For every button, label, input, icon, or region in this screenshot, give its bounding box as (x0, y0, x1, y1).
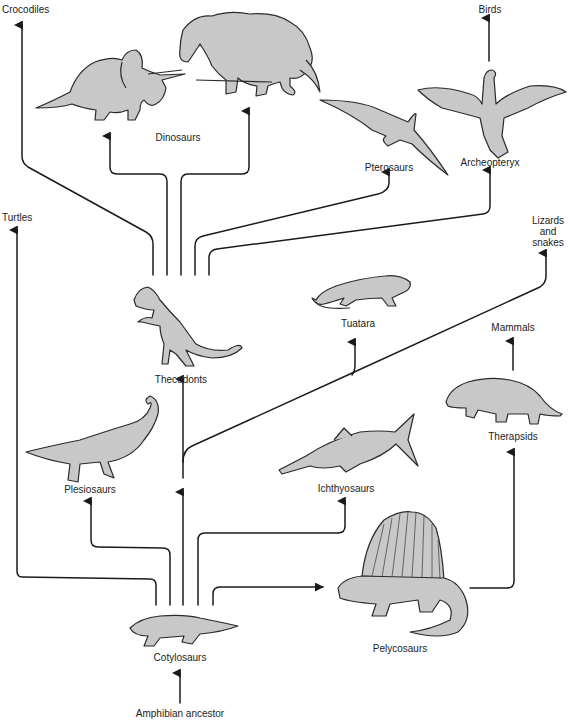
sauropod-illustration (180, 12, 320, 96)
pelycosaur-illustration (338, 512, 468, 636)
label-pterosaurs: Pterosaurs (365, 162, 413, 173)
label-plesiosaurs: Plesiosaurs (64, 484, 116, 495)
therapsid-illustration (446, 378, 562, 424)
label-thecodonts: Thecodonts (155, 374, 207, 385)
label-amphibian-ancestor: Amphibian ancestor (136, 708, 224, 719)
label-crocodiles: Crocodiles (2, 4, 49, 15)
label-ichthyosaurs: Ichthyosaurs (318, 483, 375, 494)
animal-illustrations (0, 0, 570, 721)
tuatara-illustration (312, 276, 410, 309)
label-therapsids: Therapsids (488, 431, 537, 442)
evolution-diagram: Crocodiles Birds Dinosaurs Pterosaurs Ar… (0, 0, 570, 721)
label-dinosaurs: Dinosaurs (155, 132, 200, 143)
label-lizards-and-snakes: Lizards and snakes (532, 215, 564, 248)
label-pelycosaurs: Pelycosaurs (373, 643, 427, 654)
label-archeopteryx: Archeopteryx (461, 157, 520, 168)
label-turtles: Turtles (2, 212, 32, 223)
triceratops-illustration (36, 50, 185, 120)
archeopteryx-illustration (418, 70, 566, 158)
thecodont-illustration (134, 287, 242, 366)
label-birds: Birds (479, 4, 502, 15)
label-tuatara: Tuatara (341, 318, 375, 329)
cotylosaur-illustration (130, 615, 238, 646)
label-cotylosaurs: Cotylosaurs (154, 652, 207, 663)
plesiosaur-illustration (26, 396, 158, 482)
label-mammals: Mammals (491, 322, 534, 333)
ichthyosaur-illustration (279, 414, 418, 474)
